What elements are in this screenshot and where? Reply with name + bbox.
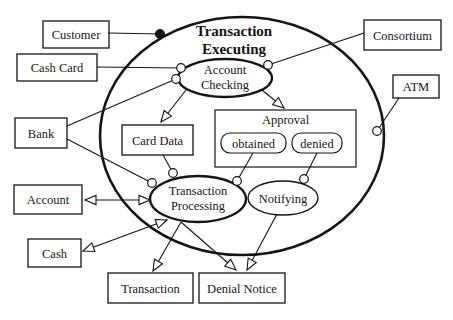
denial-notice-label: Denial Notice <box>207 282 277 296</box>
consortium-to-checking-open-circle-endpoint <box>264 61 273 70</box>
account-checking-label-line-2: Checking <box>201 78 250 92</box>
checking-to-carddata-arrowhead <box>161 110 171 122</box>
processing-cash-start-arrowhead <box>155 219 167 228</box>
denied-to-notifying-open-circle-endpoint <box>300 175 309 184</box>
customer-to-executing-filled-dot-endpoint <box>155 29 164 38</box>
checking-to-approval-arrowhead <box>273 97 284 108</box>
processing-account-start-arrowhead <box>139 195 150 204</box>
bank-to-processing-open-circle-endpoint <box>148 179 157 188</box>
notifying-label: Notifying <box>259 192 308 206</box>
approval-label: Approval <box>262 113 310 127</box>
consortium-label: Consortium <box>373 29 432 43</box>
transaction-processing-label-line-1: Transaction <box>169 184 228 198</box>
diagram-title-line-2: Executing <box>202 41 267 57</box>
bank-to-checking-open-circle-endpoint <box>172 75 181 84</box>
cash-card-label: Cash Card <box>31 61 84 75</box>
transaction-executing-diagram: TransactionExecutingApprovalobtaineddeni… <box>0 0 453 320</box>
card-data-label: Card Data <box>132 134 183 148</box>
notifying-to-denialnotice-arrowhead <box>247 258 256 270</box>
bank-to-checking-line <box>67 79 176 126</box>
denied-label: denied <box>300 137 334 151</box>
cashcard-to-checking-line <box>97 67 181 68</box>
atm-label: ATM <box>403 80 429 94</box>
processing-to-transaction-arrowhead <box>153 259 162 271</box>
processing-cash-arrowhead <box>83 243 95 252</box>
diagram-title-line-1: Transaction <box>196 23 273 39</box>
customer-label: Customer <box>52 28 101 42</box>
processing-account-arrowhead <box>85 195 96 204</box>
atm-to-executing-line <box>377 98 399 131</box>
carddata-to-processing-open-circle-endpoint <box>169 169 178 178</box>
obtained-label: obtained <box>232 137 276 151</box>
atm-to-executing-open-circle-endpoint <box>373 127 382 136</box>
bank-label: Bank <box>28 127 55 141</box>
cashcard-to-checking-open-circle-endpoint <box>177 64 186 73</box>
diagram-canvas: TransactionExecutingApprovalobtaineddeni… <box>0 0 453 320</box>
cash-label: Cash <box>42 247 68 261</box>
transaction-processing-label-line-2: Processing <box>171 199 226 213</box>
account-label: Account <box>27 193 70 207</box>
account-checking-label-line-1: Account <box>204 63 247 77</box>
transaction-label: Transaction <box>121 282 180 296</box>
obtained-to-processing-open-circle-endpoint <box>233 177 242 186</box>
processing-cash-line <box>83 220 167 251</box>
customer-to-executing-line <box>108 33 160 34</box>
consortium-to-checking-line <box>268 33 364 65</box>
